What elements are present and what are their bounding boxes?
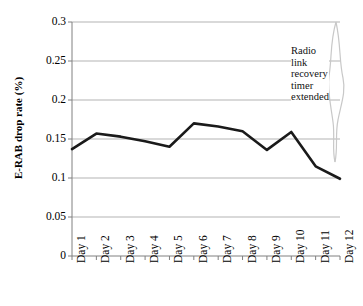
annotation-line: timer xyxy=(291,80,329,92)
x-tick-label-day-12: Day 12 xyxy=(344,229,356,263)
x-tick-label-day-4: Day 4 xyxy=(149,235,161,263)
x-tick-label-day-8: Day 8 xyxy=(247,235,259,263)
x-tick-label-day-3: Day 3 xyxy=(125,235,137,263)
annotation-line: Radio xyxy=(291,45,329,57)
x-tick-label-day-2: Day 2 xyxy=(100,235,112,263)
annotation-line: link xyxy=(291,57,329,69)
annotation-line: extended xyxy=(291,91,329,103)
x-tick-label-day-9: Day 9 xyxy=(271,235,283,263)
x-tick-label-day-7: Day 7 xyxy=(222,235,234,263)
x-tick-label-day-1: Day 1 xyxy=(76,235,88,263)
chart-container: E-RAB drop rate (%) 00.050.10.150.20.250… xyxy=(0,0,363,306)
bracket-icon-inner xyxy=(328,22,336,162)
data-series-line xyxy=(72,123,340,178)
x-tick-label-day-6: Day 6 xyxy=(198,235,210,263)
annotation-bracket-icon xyxy=(328,22,343,162)
x-tick-label-day-10: Day 10 xyxy=(295,229,307,263)
x-tick-label-day-5: Day 5 xyxy=(173,235,185,263)
bracket-icon xyxy=(335,22,344,162)
x-tick-label-day-11: Day 11 xyxy=(320,230,332,263)
annotation-line: recovery xyxy=(291,68,329,80)
radio-link-annotation: Radiolinkrecoverytimerextended xyxy=(291,45,329,103)
